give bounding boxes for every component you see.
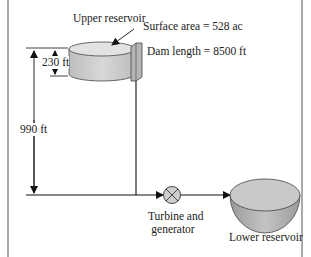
turbine-label-line1: Turbine and [148,210,198,223]
turbine-label: Turbine and generator [148,210,198,236]
upper-reservoir-label: Upper reservoir [73,12,145,25]
dam-length-label: Dam length = 8500 ft [147,45,246,58]
dam [131,43,142,81]
lower-reservoir-label: Lower reservoir [229,231,303,244]
turbine-icon [164,187,181,204]
upper-reservoir-cylinder [69,42,135,81]
surface-area-label: Surface area = 528 ac [143,20,243,33]
depth-label: 230 ft [42,56,69,69]
lower-reservoir-bowl [230,179,300,233]
turbine-label-line2: generator [148,223,198,236]
head-label: 990 ft [20,123,47,136]
surface-area-pointer [112,29,134,45]
